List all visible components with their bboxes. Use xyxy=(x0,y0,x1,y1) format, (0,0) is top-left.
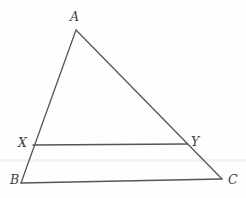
vertex-label-X: X xyxy=(18,137,27,150)
vertex-label-Y: Y xyxy=(191,136,199,149)
vertex-label-B: B xyxy=(10,174,19,187)
segment-AC xyxy=(76,30,222,179)
vertex-label-C: C xyxy=(228,174,238,187)
geometry-figure: A B C X Y xyxy=(0,0,246,198)
triangle-diagram-svg xyxy=(0,0,246,198)
vertex-label-A: A xyxy=(70,11,79,24)
segment-XY xyxy=(33,144,187,145)
segment-BC xyxy=(21,179,222,183)
segment-AB xyxy=(21,30,76,183)
